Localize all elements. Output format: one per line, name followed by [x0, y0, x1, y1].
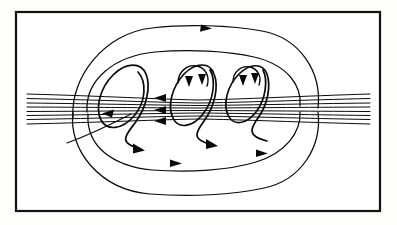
figure-root	[0, 0, 397, 225]
magnetic-field-diagram	[0, 0, 397, 225]
